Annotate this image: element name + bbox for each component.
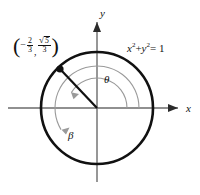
point-marker <box>56 65 63 72</box>
coord-x-denominator: 3 <box>27 46 33 54</box>
terminal-ray <box>61 70 98 109</box>
coord-x-fraction: 2 3 <box>27 37 33 55</box>
x-axis-label: x <box>186 103 191 114</box>
coord-y-numerator: √5 <box>38 36 51 45</box>
theta-arc <box>71 78 127 108</box>
theta-label: θ <box>104 74 109 85</box>
coord-close-paren: ) <box>51 37 58 55</box>
y-axis-label: y <box>100 8 105 19</box>
point-coordinate-label: ( − 2 3 , √5 3 ) <box>13 36 59 55</box>
unit-circle-figure: y x θ β x2+y2= 1 ( − 2 3 , √5 3 ) <box>0 0 200 195</box>
y-axis-arrowhead <box>93 22 101 32</box>
coord-y-radicand: 5 <box>44 36 50 45</box>
coord-x-sign: − <box>20 40 26 50</box>
circle-equation: x2+y2= 1 <box>127 43 164 54</box>
coord-open-paren: ( <box>13 37 20 55</box>
beta-label: β <box>68 130 73 141</box>
coord-x-numerator: 2 <box>27 37 33 45</box>
equation-equals: = 1 <box>150 42 164 54</box>
theta-arc-arrowhead <box>71 92 79 99</box>
figure-canvas <box>0 0 200 195</box>
x-axis-arrowhead <box>168 104 178 112</box>
coord-y-denominator: 3 <box>41 46 47 54</box>
coord-y-fraction: √5 3 <box>38 36 51 55</box>
coord-comma: , <box>34 47 37 57</box>
